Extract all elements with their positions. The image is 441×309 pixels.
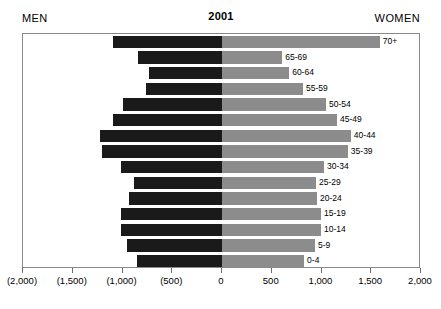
age-band-label-25-29: 25-29 xyxy=(319,176,341,190)
bar-men-10-14 xyxy=(121,224,222,236)
age-band-label-50-54: 50-54 xyxy=(329,98,351,112)
chart-title: 2001 xyxy=(22,10,420,22)
axis-tick xyxy=(221,268,222,273)
bar-men-5-9 xyxy=(127,239,222,251)
axis-tick-label: (2,000) xyxy=(7,275,37,286)
bar-women-60-64 xyxy=(222,67,289,79)
age-band-label-5-9: 5-9 xyxy=(318,239,330,253)
bar-women-0-4 xyxy=(222,255,304,267)
bar-men-65-69 xyxy=(138,51,222,63)
age-band-label-70+: 70+ xyxy=(383,35,397,49)
pyramid-row: 55-59 xyxy=(23,81,419,97)
bar-women-40-44 xyxy=(222,130,351,142)
women-axis-label: WOMEN xyxy=(375,12,420,24)
x-axis: (2,000)(1,500)(1,000)(500)05001,0001,500… xyxy=(22,268,420,302)
pyramid-row: 45-49 xyxy=(23,112,419,128)
bar-women-65-69 xyxy=(222,51,282,63)
pyramid-row: 30-34 xyxy=(23,159,419,175)
age-band-label-40-44: 40-44 xyxy=(354,129,376,143)
bar-women-35-39 xyxy=(222,145,348,157)
bar-women-10-14 xyxy=(222,224,321,236)
bar-men-20-24 xyxy=(129,192,222,204)
axis-tick-label: 2,000 xyxy=(408,275,432,286)
axis-tick-label: 0 xyxy=(218,275,223,286)
bar-men-50-54 xyxy=(123,98,222,110)
axis-tick xyxy=(271,268,272,273)
pyramid-row: 0-4 xyxy=(23,253,419,268)
bar-women-15-19 xyxy=(222,208,321,220)
bar-men-70+ xyxy=(113,36,222,48)
axis-tick xyxy=(420,268,421,273)
bar-women-30-34 xyxy=(222,161,324,173)
axis-tick xyxy=(72,268,73,273)
bar-women-20-24 xyxy=(222,192,317,204)
bar-men-30-34 xyxy=(121,161,222,173)
age-band-label-45-49: 45-49 xyxy=(340,113,362,127)
bar-women-5-9 xyxy=(222,239,315,251)
axis-tick xyxy=(22,268,23,273)
plot-area: 70+65-6960-6455-5950-5445-4940-4435-3930… xyxy=(22,33,420,268)
axis-tick xyxy=(171,268,172,273)
bar-women-50-54 xyxy=(222,98,326,110)
pyramid-row: 35-39 xyxy=(23,144,419,160)
pyramid-row: 25-29 xyxy=(23,175,419,191)
age-band-label-15-19: 15-19 xyxy=(324,207,346,221)
bar-women-55-59 xyxy=(222,83,303,95)
axis-tick-label: (1,500) xyxy=(57,275,87,286)
bar-men-55-59 xyxy=(146,83,222,95)
bar-men-15-19 xyxy=(121,208,222,220)
population-pyramid-chart: MEN 2001 WOMEN 70+65-6960-6455-5950-5445… xyxy=(0,0,441,309)
pyramid-row: 70+ xyxy=(23,34,419,50)
axis-tick-label: 1,500 xyxy=(358,275,382,286)
bar-women-45-49 xyxy=(222,114,337,126)
bar-men-40-44 xyxy=(100,130,222,142)
bar-women-25-29 xyxy=(222,177,316,189)
axis-tick-label: (500) xyxy=(160,275,182,286)
age-band-label-55-59: 55-59 xyxy=(306,82,328,96)
bar-men-45-49 xyxy=(113,114,222,126)
axis-tick-label: 500 xyxy=(263,275,279,286)
age-band-label-30-34: 30-34 xyxy=(327,160,349,174)
axis-tick xyxy=(321,268,322,273)
chart-header: MEN 2001 WOMEN xyxy=(22,10,420,30)
pyramid-row: 60-64 xyxy=(23,65,419,81)
axis-tick-label: 1,000 xyxy=(309,275,333,286)
bar-men-35-39 xyxy=(102,145,222,157)
bar-men-0-4 xyxy=(137,255,222,267)
pyramid-row: 65-69 xyxy=(23,50,419,66)
pyramid-row: 40-44 xyxy=(23,128,419,144)
pyramid-row: 5-9 xyxy=(23,238,419,254)
bar-men-60-64 xyxy=(149,67,222,79)
bar-women-70+ xyxy=(222,36,380,48)
axis-tick-label: (1,000) xyxy=(106,275,136,286)
axis-tick xyxy=(122,268,123,273)
bar-men-25-29 xyxy=(134,177,222,189)
age-band-label-60-64: 60-64 xyxy=(292,66,314,80)
pyramid-row: 10-14 xyxy=(23,222,419,238)
age-band-label-65-69: 65-69 xyxy=(285,51,307,65)
age-band-label-10-14: 10-14 xyxy=(324,223,346,237)
age-band-label-35-39: 35-39 xyxy=(351,145,373,159)
pyramid-row: 15-19 xyxy=(23,206,419,222)
age-band-label-20-24: 20-24 xyxy=(320,192,342,206)
axis-tick xyxy=(370,268,371,273)
pyramid-row: 20-24 xyxy=(23,191,419,207)
pyramid-row: 50-54 xyxy=(23,97,419,113)
age-band-label-0-4: 0-4 xyxy=(307,254,319,268)
